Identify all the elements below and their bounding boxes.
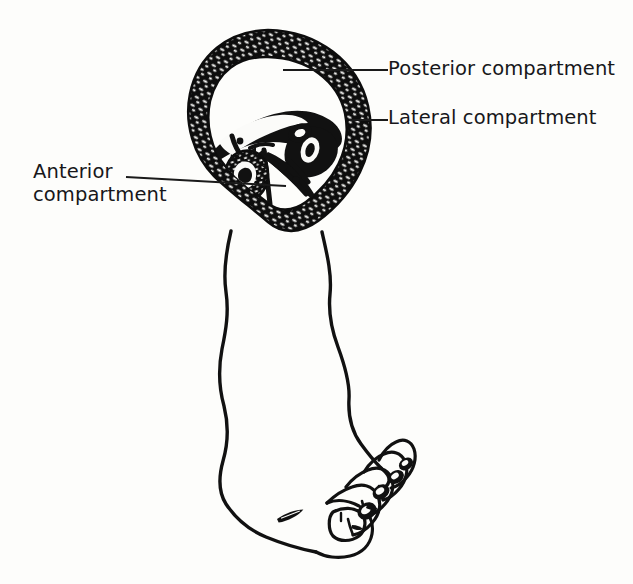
figure-canvas [0,0,633,584]
anatomical-figure: Posterior compartment Lateral compartmen… [0,0,633,584]
toes-group [316,440,415,557]
label-anterior-line2: compartment [33,183,173,206]
label-anterior-line1: Anterior [33,160,173,183]
label-anterior-compartment: Anterior compartment [33,160,173,206]
label-lateral-compartment: Lateral compartment [388,106,597,129]
toenails-group [277,455,416,541]
label-posterior-compartment: Posterior compartment [388,57,615,80]
